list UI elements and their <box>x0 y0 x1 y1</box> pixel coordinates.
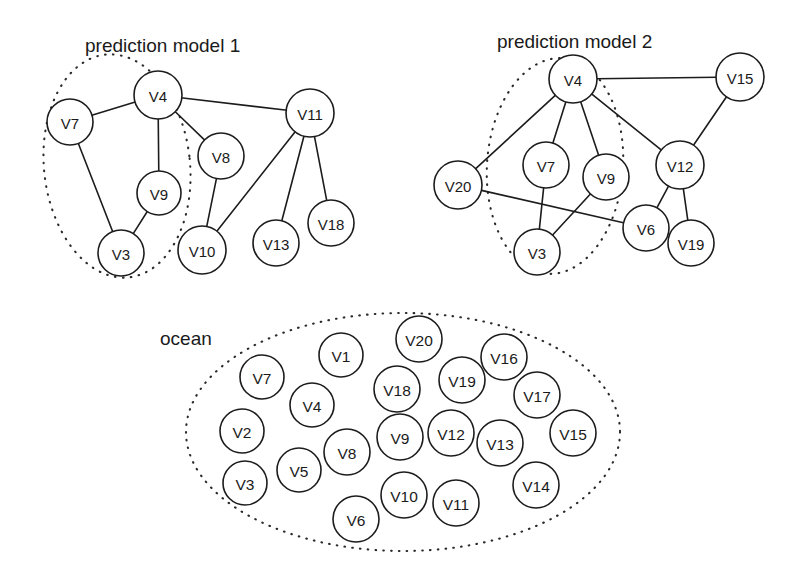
node-ocean-V7[interactable]: V7 <box>240 355 284 399</box>
node-label-V9: V9 <box>391 430 410 447</box>
node-ocean-V6[interactable]: V6 <box>333 496 379 542</box>
edge-V4-V15 <box>596 77 717 78</box>
node-label-V16: V16 <box>490 350 518 367</box>
node-label-V9: V9 <box>597 170 615 187</box>
node-ocean-V8[interactable]: V8 <box>324 429 370 475</box>
node-ocean-V18[interactable]: V18 <box>374 366 420 412</box>
node-label-V7: V7 <box>253 370 272 387</box>
node-ocean-V11[interactable]: V11 <box>433 480 479 526</box>
node-ocean-V17[interactable]: V17 <box>514 372 560 418</box>
node-prediction-model-2-V7[interactable]: V7 <box>523 142 569 188</box>
node-ocean-V13[interactable]: V13 <box>477 420 523 466</box>
node-prediction-model-2-V9[interactable]: V9 <box>583 154 629 200</box>
node-label-V20: V20 <box>445 178 472 195</box>
node-ocean-V20[interactable]: V20 <box>396 316 442 362</box>
edge-V4-V11 <box>181 98 287 111</box>
group-prediction-model-1: V7V4V9V3V8V10V11V13V18prediction model 1 <box>33 35 354 285</box>
node-prediction-model-1-V8[interactable]: V8 <box>198 133 244 179</box>
node-prediction-model-2-V19[interactable]: V19 <box>668 220 714 266</box>
node-label-V3: V3 <box>236 476 255 493</box>
node-label-V6: V6 <box>347 512 366 529</box>
node-prediction-model-2-V12[interactable]: V12 <box>656 141 704 189</box>
node-label-V10: V10 <box>189 243 216 260</box>
node-ocean-V19[interactable]: V19 <box>439 357 485 403</box>
node-label-V18: V18 <box>383 382 411 399</box>
group-title-prediction-model-2: prediction model 2 <box>497 31 652 52</box>
edge-V4-V9 <box>580 101 599 156</box>
edge-V8-V10 <box>207 178 217 228</box>
node-prediction-model-2-V15[interactable]: V15 <box>716 53 764 101</box>
edge-V12-V19 <box>683 188 688 221</box>
node-label-V15: V15 <box>727 70 754 87</box>
groups-layer: V7V4V9V3V8V10V11V13V18prediction model 1… <box>33 31 764 551</box>
node-prediction-model-1-V13[interactable]: V13 <box>253 220 299 266</box>
node-prediction-model-2-V6[interactable]: V6 <box>623 205 669 251</box>
node-label-V3: V3 <box>112 246 130 263</box>
node-label-V1: V1 <box>332 348 351 365</box>
node-prediction-model-1-V4[interactable]: V4 <box>134 71 182 119</box>
node-prediction-model-2-V4[interactable]: V4 <box>549 55 597 103</box>
node-label-V8: V8 <box>212 149 230 166</box>
edge-V7-V3 <box>539 187 543 230</box>
node-label-V12: V12 <box>437 426 465 443</box>
node-prediction-model-1-V18[interactable]: V18 <box>308 200 354 246</box>
node-label-V7: V7 <box>61 115 79 132</box>
node-label-V4: V4 <box>303 398 322 415</box>
figure-root: V7V4V9V3V8V10V11V13V18prediction model 1… <box>0 0 801 582</box>
group-title-ocean: ocean <box>160 328 212 349</box>
node-prediction-model-2-V20[interactable]: V20 <box>434 161 482 209</box>
node-label-V5: V5 <box>290 463 309 480</box>
node-prediction-model-2-V3[interactable]: V3 <box>514 229 560 275</box>
edge-V12-V6 <box>656 185 669 208</box>
edge-V11-V13 <box>282 135 305 221</box>
edge-V4-V7 <box>553 101 567 144</box>
node-ocean-V2[interactable]: V2 <box>220 409 264 453</box>
node-label-V10: V10 <box>390 488 418 505</box>
node-prediction-model-1-V3[interactable]: V3 <box>98 230 144 276</box>
node-label-V2: V2 <box>233 424 252 441</box>
node-label-V6: V6 <box>637 221 655 238</box>
edge-V4-V9 <box>158 118 159 172</box>
node-prediction-model-1-V10[interactable]: V10 <box>178 226 226 274</box>
node-ocean-V3[interactable]: V3 <box>223 461 267 505</box>
node-label-V19: V19 <box>448 373 476 390</box>
edge-V9-V3 <box>133 211 148 235</box>
node-ocean-V16[interactable]: V16 <box>481 334 527 380</box>
node-label-V3: V3 <box>528 245 546 262</box>
edge-V11-V18 <box>314 136 327 202</box>
node-label-V12: V12 <box>667 158 694 175</box>
node-ocean-V4[interactable]: V4 <box>290 383 334 427</box>
edge-V7-V4 <box>91 102 136 116</box>
node-ocean-V15[interactable]: V15 <box>550 410 596 456</box>
edge-V7-V3 <box>78 143 113 233</box>
node-label-V19: V19 <box>678 236 705 253</box>
node-label-V14: V14 <box>522 478 550 495</box>
edge-V4-V12 <box>591 93 662 150</box>
node-label-V17: V17 <box>523 388 551 405</box>
group-ocean: V7V1V20V16V18V19V17V4V2V9V12V13V15V8V5V3… <box>160 313 620 551</box>
node-label-V13: V13 <box>486 436 514 453</box>
edge-V4-V8 <box>175 111 206 141</box>
group-prediction-model-2: V4V20V7V9V3V6V12V15V19prediction model 2 <box>434 31 764 278</box>
node-ocean-V5[interactable]: V5 <box>277 448 321 492</box>
node-ocean-V9[interactable]: V9 <box>377 414 423 460</box>
node-ocean-V1[interactable]: V1 <box>319 333 363 377</box>
node-label-V8: V8 <box>338 445 357 462</box>
graph-diagram-canvas: V7V4V9V3V8V10V11V13V18prediction model 1… <box>0 0 801 582</box>
node-label-V18: V18 <box>318 216 345 233</box>
node-label-V20: V20 <box>405 332 433 349</box>
group-title-prediction-model-1: prediction model 1 <box>85 35 240 56</box>
node-label-V15: V15 <box>559 426 587 443</box>
node-prediction-model-1-V9[interactable]: V9 <box>137 171 181 215</box>
node-label-V13: V13 <box>263 236 290 253</box>
node-ocean-V10[interactable]: V10 <box>381 472 427 518</box>
node-prediction-model-1-V7[interactable]: V7 <box>47 99 93 145</box>
node-label-V11: V11 <box>443 496 469 513</box>
node-prediction-model-1-V11[interactable]: V11 <box>286 89 334 137</box>
edge-V12-V15 <box>693 96 727 146</box>
node-label-V9: V9 <box>150 186 168 203</box>
node-label-V7: V7 <box>537 158 555 175</box>
node-ocean-V12[interactable]: V12 <box>428 410 474 456</box>
node-ocean-V14[interactable]: V14 <box>513 462 559 508</box>
node-label-V4: V4 <box>564 72 582 89</box>
